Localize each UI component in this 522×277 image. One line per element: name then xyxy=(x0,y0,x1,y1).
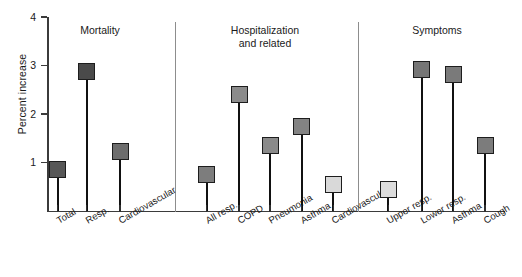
stem-cough xyxy=(484,145,486,211)
x-tick-copd xyxy=(238,205,239,212)
data-marker-upper-resp xyxy=(380,181,397,198)
x-tick-cardiovascular xyxy=(119,205,120,212)
group-title-line: Hospitalization xyxy=(190,24,340,37)
data-marker-cough xyxy=(477,137,494,154)
data-marker-pneumonia xyxy=(262,137,279,154)
data-marker-cardiovascular xyxy=(325,176,342,193)
x-tick-asthma xyxy=(453,205,454,212)
chart-root: Percent increase 1234 MortalityHospitali… xyxy=(0,0,522,277)
group-title-line: and related xyxy=(190,37,340,50)
group-divider-1 xyxy=(175,22,176,212)
group-title-mortality: Mortality xyxy=(30,24,170,37)
x-axis-label-all-resp: All resp. xyxy=(204,200,239,226)
stem-cardiovascular xyxy=(119,152,121,211)
x-tick-asthma xyxy=(301,205,302,212)
stem-asthma xyxy=(452,74,454,211)
group-title-line: Mortality xyxy=(30,24,170,37)
y-tick-label-4: 4 xyxy=(22,12,36,23)
x-axis-label-resp: Resp. xyxy=(84,204,111,225)
x-tick-lower-resp xyxy=(421,205,422,212)
data-marker-asthma xyxy=(293,118,310,135)
data-marker-all-resp xyxy=(198,166,215,183)
x-axis-label-cardiovascular: Cardiovascular xyxy=(117,185,177,226)
x-tick-cardiovascular xyxy=(333,205,334,212)
stem-asthma xyxy=(301,127,303,211)
data-marker-total xyxy=(49,161,66,178)
data-marker-resp xyxy=(78,63,95,80)
x-tick-resp xyxy=(86,205,87,212)
x-tick-upper-resp xyxy=(388,205,389,212)
y-tick-2 xyxy=(41,113,47,114)
group-title-line: Symptoms xyxy=(372,24,502,37)
group-title-symptoms: Symptoms xyxy=(372,24,502,37)
x-tick-cough xyxy=(484,205,485,212)
stem-copd xyxy=(238,95,240,211)
x-tick-all-resp xyxy=(206,205,207,212)
y-tick-label-2: 2 xyxy=(22,109,36,120)
data-marker-cardiovascular xyxy=(112,143,129,160)
x-axis-label-copd: COPD xyxy=(236,203,265,226)
y-tick-label-1: 1 xyxy=(22,157,36,168)
group-title-hospitalization-and-related: Hospitalizationand related xyxy=(190,24,340,49)
y-axis-line xyxy=(47,17,49,212)
y-tick-3 xyxy=(41,65,47,66)
group-divider-2 xyxy=(358,22,359,212)
data-marker-asthma xyxy=(445,66,462,83)
x-tick-total xyxy=(57,205,58,212)
data-marker-lower-resp xyxy=(413,61,430,78)
x-tick-pneumonia xyxy=(269,205,270,212)
stem-resp xyxy=(86,71,88,211)
y-tick-label-3: 3 xyxy=(22,60,36,71)
y-axis-title: Percent increase xyxy=(16,39,28,149)
y-tick-1 xyxy=(41,162,47,163)
stem-pneumonia xyxy=(269,146,271,211)
y-tick-4 xyxy=(41,16,47,17)
data-marker-copd xyxy=(231,86,248,103)
x-axis-label-cough: Cough xyxy=(482,203,511,226)
stem-lower-resp xyxy=(421,69,423,211)
